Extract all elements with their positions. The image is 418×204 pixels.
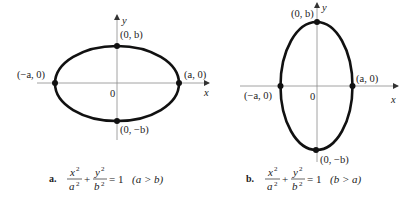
- caption-b-numerator-2: y: [292, 166, 298, 178]
- panel-b-vertex-top: [314, 19, 320, 25]
- panel-a-horizontal-ellipse: y x 0 (0, b) (0, −b) (−a, 0) (a, 0): [17, 15, 209, 140]
- caption-b-numerator-1: x: [267, 166, 273, 178]
- caption-a-exp: 2: [76, 180, 80, 188]
- caption-a-exp: 2: [101, 180, 105, 188]
- panel-b-vertex-left: [278, 83, 284, 89]
- caption-b-exp: 2: [299, 165, 303, 173]
- caption-b-exp: 2: [299, 180, 303, 188]
- caption-a-exp: 2: [101, 165, 105, 173]
- caption-a-numerator-2: y: [94, 166, 100, 178]
- caption-a: a. x 2 a 2 + y 2 b 2 = 1 (a > b): [49, 165, 164, 192]
- caption-b: b. x 2 a 2 + y 2 b 2 = 1 (b > a): [246, 165, 362, 192]
- panel-b-vertical-ellipse: y x 0 (0, b) (0, −b) (−a, 0) (a, 0): [240, 2, 398, 166]
- ellipse-figure: y x 0 (0, b) (0, −b) (−a, 0) (a, 0) y x …: [0, 0, 418, 204]
- panel-a-vertex-left: [52, 80, 58, 86]
- caption-a-letter: a.: [49, 173, 57, 184]
- caption-b-equals: = 1: [307, 173, 321, 185]
- caption-b-letter: b.: [246, 173, 255, 184]
- caption-a-denominator-1: a: [69, 180, 75, 192]
- caption-a-exp: 2: [76, 165, 80, 173]
- panel-b-x-axis-label: x: [390, 94, 396, 105]
- panel-a-y-axis-label: y: [121, 15, 127, 26]
- caption-b-exp: 2: [274, 165, 278, 173]
- panel-a-origin-label: 0: [110, 88, 115, 99]
- caption-b-plus: +: [282, 173, 288, 185]
- panel-a-vertex-right: [176, 80, 182, 86]
- panel-b-y-axis-label: y: [321, 2, 327, 13]
- caption-a-equals: = 1: [109, 173, 123, 185]
- panel-b-vertex-right: [350, 83, 356, 89]
- panel-b-right-point-label: (a, 0): [356, 73, 379, 85]
- caption-b-exp: 2: [274, 180, 278, 188]
- panel-b-left-point-label: (−a, 0): [244, 90, 273, 102]
- panel-a-left-point-label: (−a, 0): [17, 69, 46, 81]
- panel-b-origin-label: 0: [310, 91, 315, 102]
- caption-b-denominator-1: a: [267, 180, 273, 192]
- panel-a-bottom-point-label: (0, −b): [120, 124, 149, 136]
- panel-b-bottom-point-label: (0, −b): [320, 154, 349, 166]
- panel-a-right-point-label: (a, 0): [184, 69, 207, 81]
- panel-a-x-axis-label: x: [203, 87, 209, 98]
- panel-b-top-point-label: (0, b): [291, 8, 314, 20]
- panel-b-vertex-bottom: [313, 147, 319, 153]
- caption-a-numerator-1: x: [69, 166, 75, 178]
- caption-a-condition: (a > b): [132, 173, 164, 186]
- caption-a-denominator-2: b: [94, 180, 100, 192]
- panel-a-top-point-label: (0, b): [120, 29, 143, 41]
- caption-a-plus: +: [84, 173, 90, 185]
- caption-b-denominator-2: b: [292, 180, 298, 192]
- panel-a-vertex-top: [114, 43, 120, 49]
- caption-b-condition: (b > a): [330, 173, 362, 186]
